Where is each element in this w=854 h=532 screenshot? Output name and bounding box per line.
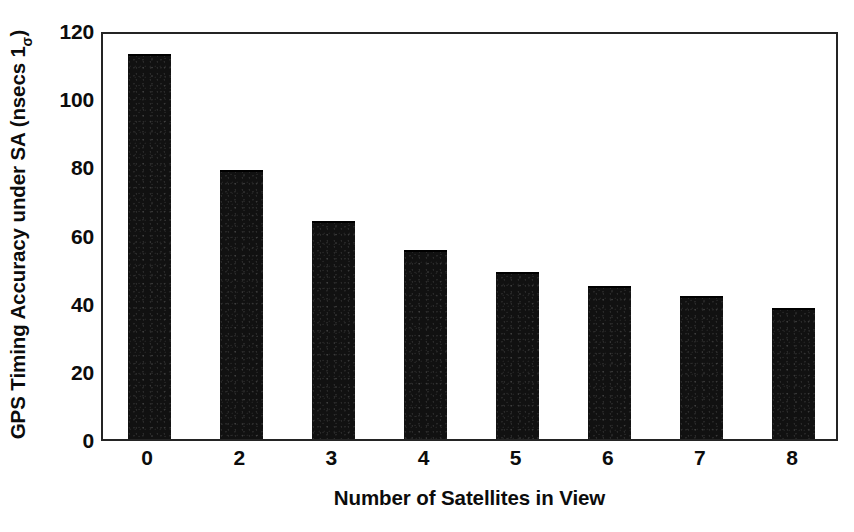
x-axis-tick-label: 0 <box>141 446 152 470</box>
y-axis-title-tail: ) <box>6 30 29 37</box>
x-axis-tick-label: 7 <box>694 446 705 470</box>
bar <box>128 54 171 439</box>
y-axis-title-sigma: σ <box>20 38 36 47</box>
y-axis-tick-label: 20 <box>71 361 94 385</box>
bar <box>772 308 815 439</box>
bars-container <box>103 34 836 439</box>
y-axis-tick-label: 80 <box>71 156 94 180</box>
x-axis-tick-label: 6 <box>602 446 613 470</box>
bar-chart-figure: GPS Timing Accuracy under SA (nsecs 1σ) … <box>0 0 854 532</box>
y-axis-tick-label: 100 <box>60 88 94 112</box>
bar <box>496 272 539 439</box>
bar <box>680 296 723 439</box>
y-axis-tick-label: 0 <box>83 429 94 453</box>
plot-area <box>101 32 838 441</box>
bar <box>312 221 355 439</box>
x-axis-tick-labels: 02345678 <box>101 446 838 480</box>
y-axis-title: GPS Timing Accuracy under SA (nsecs 1σ) <box>0 0 40 470</box>
bar <box>588 286 631 439</box>
y-axis-tick-labels: 020406080100120 <box>36 32 94 441</box>
x-axis-tick-label: 4 <box>418 446 429 470</box>
x-axis-tick-label: 2 <box>233 446 244 470</box>
x-axis-tick-label: 5 <box>510 446 521 470</box>
y-axis-tick-label: 60 <box>71 225 94 249</box>
y-axis-tick-label: 40 <box>71 293 94 317</box>
bar <box>220 170 263 439</box>
y-axis-tick-label: 120 <box>60 20 94 44</box>
x-axis-title: Number of Satellites in View <box>101 486 838 510</box>
bar <box>404 250 447 439</box>
x-axis-tick-label: 8 <box>786 446 797 470</box>
x-axis-tick-label: 3 <box>326 446 337 470</box>
y-axis-title-main: GPS Timing Accuracy under SA (nsecs 1 <box>6 47 29 440</box>
